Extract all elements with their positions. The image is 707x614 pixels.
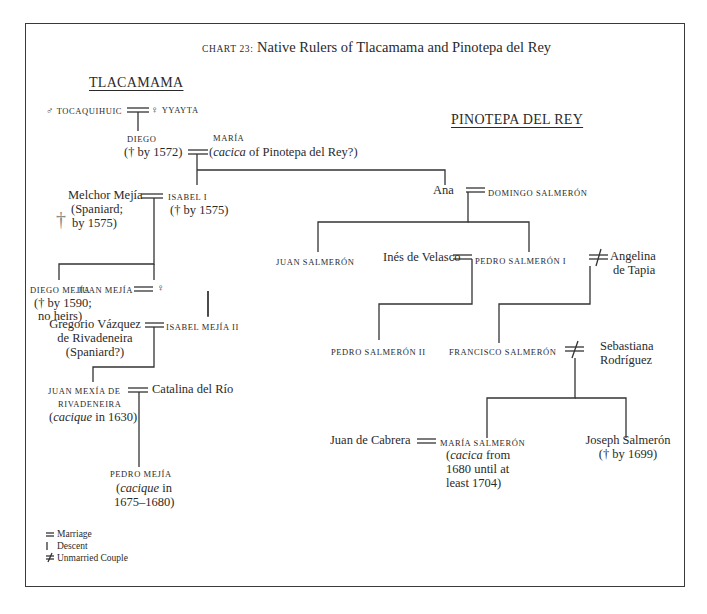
female-icon: ♀: [157, 280, 165, 295]
legend: Marriage Descent Unmarried Couple: [57, 528, 128, 564]
person-isabel-1-note: († by 1575): [170, 203, 228, 218]
region-tlacamama: TLACAMAMA: [89, 75, 183, 90]
person-pedro-salmeron-2: PEDRO SALMERÓN II: [331, 345, 426, 360]
person-isabel-mejia-2: ISABEL MEJÍA II: [166, 320, 239, 335]
person-sebastiana: Sebastiana Rodríguez: [600, 339, 653, 367]
person-juan-mexia-note: (cacique in 1630): [49, 410, 137, 425]
handwritten-cross-mark: †: [56, 208, 66, 231]
person-joseph-salmeron: Joseph Salmerón († by 1699): [583, 433, 673, 461]
person-melchor-note-2: by 1575): [72, 216, 117, 231]
genealogy-lines: [0, 0, 707, 614]
legend-descent: Descent: [57, 540, 128, 552]
person-diego-note: († by 1572): [124, 145, 182, 160]
person-gregorio: Gregorio Vázquez de Rivadeneira (Spaniar…: [46, 317, 144, 359]
person-melchor-note: (Spaniard;: [71, 202, 123, 217]
chart-title: CHART 23: Native Rulers of Tlacamama and…: [202, 40, 551, 57]
person-ana: Ana: [433, 183, 454, 198]
person-angelina: Angelina de Tapia: [610, 249, 656, 277]
person-pedro-mejia-note: (cacique in: [116, 481, 172, 496]
person-pedro-mejia: PEDRO MEJÍA: [110, 467, 172, 482]
person-ines-de-velasco: Inés de Velasco: [383, 250, 461, 265]
person-maria: MARÍA: [213, 131, 244, 146]
legend-unmarried: Unmarried Couple: [57, 552, 128, 564]
person-domingo-salmeron: DOMINGO SALMERÓN: [488, 186, 588, 201]
person-pedro-salmeron-1: PEDRO SALMERÓN I: [475, 254, 566, 269]
legend-marriage: Marriage: [57, 528, 128, 540]
person-melchor: Melchor Mejía: [68, 188, 143, 203]
person-yyayta: ♀ YYAYTA: [151, 102, 199, 118]
person-juan-de-cabrera: Juan de Cabrera: [330, 433, 411, 448]
person-juan-mejia: JUAN MEJÍA: [78, 283, 133, 298]
person-francisco-salmeron: FRANCISCO SALMERÓN: [449, 345, 556, 360]
person-maria-salmeron-note: (cacica from 1680 until at least 1704): [446, 448, 510, 490]
person-catalina: Catalina del Río: [152, 382, 233, 397]
chart-label: CHART 23:: [202, 44, 253, 54]
person-juan-salmeron: JUAN SALMERÓN: [276, 255, 354, 270]
male-icon: ♂: [46, 105, 54, 116]
female-icon: ♀: [151, 104, 159, 115]
person-maria-note: (cacica of Pinotepa del Rey?): [209, 145, 358, 160]
person-tocaquihuic: ♂ TOCAQUIHUIC: [46, 103, 122, 119]
region-pinotepa: PINOTEPA DEL REY: [451, 112, 583, 127]
person-pedro-mejia-note-2: 1675–1680): [114, 495, 174, 510]
chart-title-text: Native Rulers of Tlacamama and Pinotepa …: [257, 39, 551, 55]
